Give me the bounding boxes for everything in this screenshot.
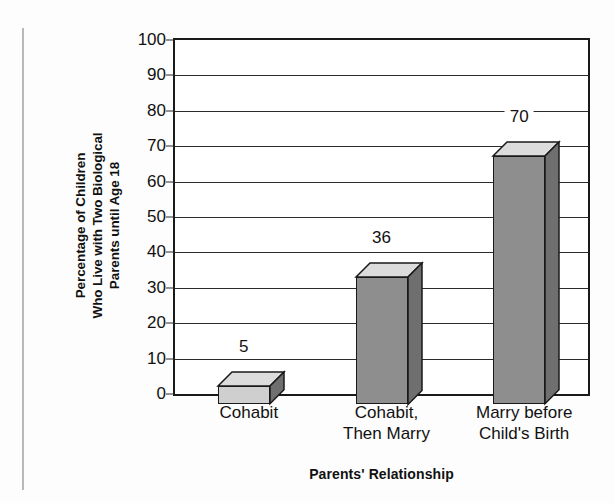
gridline-90 (175, 75, 588, 76)
bar-chart-figure: Percentage of Children Who Live with Two… (0, 0, 615, 503)
x-category-label-2: Cohabit, Then Marry (307, 402, 467, 444)
y-axis-title-line-1: Percentage of Children (72, 66, 89, 386)
plot-area: 0102030405060708090100 53670 (173, 38, 590, 396)
y-tick-label-90: 90 (126, 65, 166, 85)
x-axis-title: Parents' Relationship (173, 466, 590, 482)
bar-side-face (545, 142, 559, 404)
y-axis-title: Percentage of Children Who Live with Two… (72, 66, 123, 386)
y-tick-label-20: 20 (126, 313, 166, 333)
bar-3: 70 (493, 136, 545, 394)
bar-side-face (408, 263, 422, 404)
y-tick-mark-100 (166, 40, 174, 41)
y-axis-title-line-2: Who Live with Two Biological (89, 66, 106, 386)
y-tick-label-10: 10 (126, 349, 166, 369)
y-tick-label-60: 60 (126, 172, 166, 192)
y-tick-label-30: 30 (126, 278, 166, 298)
y-tick-mark-20 (166, 323, 174, 324)
bar-value-label-2: 36 (367, 229, 396, 247)
y-tick-mark-10 (166, 358, 174, 359)
x-category-label-3: Marry before Child's Birth (444, 402, 604, 444)
bar-value-label-1: 5 (234, 338, 253, 356)
y-axis-title-line-3: Parents until Age 18 (106, 66, 123, 386)
bar-1: 5 (218, 366, 270, 394)
bar-3d-faces (218, 370, 286, 404)
y-tick-mark-90 (166, 75, 174, 76)
y-tick-mark-60 (166, 181, 174, 182)
y-tick-mark-50 (166, 217, 174, 218)
bar-3d-faces (493, 140, 561, 404)
y-tick-label-80: 80 (126, 101, 166, 121)
y-tick-mark-0 (166, 394, 174, 395)
y-tick-label-70: 70 (126, 136, 166, 156)
y-tick-mark-70 (166, 146, 174, 147)
bar-2: 36 (356, 257, 408, 394)
y-tick-label-50: 50 (126, 207, 166, 227)
y-tick-mark-40 (166, 252, 174, 253)
y-tick-label-0: 0 (126, 384, 166, 404)
x-category-label-1: Cohabit (169, 402, 329, 423)
bar-3d-faces (356, 261, 424, 404)
y-tick-mark-80 (166, 110, 174, 111)
bar-value-label-3: 70 (505, 108, 534, 126)
y-tick-label-100: 100 (126, 30, 166, 50)
y-tick-mark-30 (166, 287, 174, 288)
y-tick-label-40: 40 (126, 242, 166, 262)
